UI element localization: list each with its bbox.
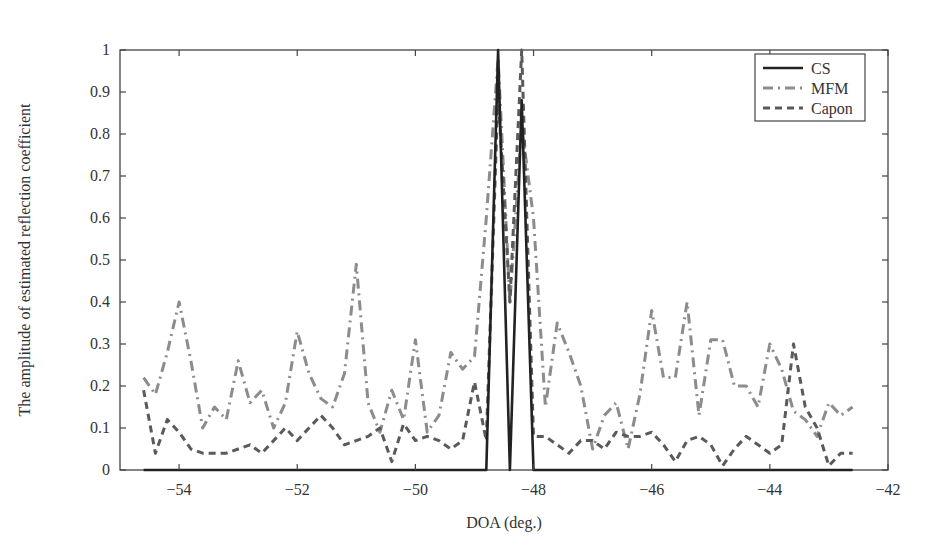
y-tick-label: 0.6: [90, 209, 110, 226]
line-chart: −54−52−50−48−46−44−4200.10.20.30.40.50.6…: [0, 0, 943, 552]
x-tick-label: −52: [285, 481, 310, 498]
legend-mfm-label: MFM: [811, 80, 848, 97]
legend-capon-label: Capon: [811, 100, 853, 118]
y-tick-label: 0.8: [90, 125, 110, 142]
y-tick-label: 0.2: [90, 377, 110, 394]
x-axis-label: DOA (deg.): [466, 514, 542, 532]
x-tick-label: −48: [521, 481, 546, 498]
x-tick-label: −44: [757, 481, 782, 498]
legend-cs-label: CS: [811, 60, 831, 77]
legend: CSMFMCapon: [755, 54, 865, 121]
y-axis-label: The amplitude of estimated reflection co…: [16, 103, 34, 416]
y-tick-label: 0.4: [90, 293, 110, 310]
y-tick-label: 0.5: [90, 251, 110, 268]
y-tick-label: 0.1: [90, 419, 110, 436]
y-tick-label: 0.7: [90, 167, 110, 184]
x-tick-label: −50: [403, 481, 428, 498]
x-tick-label: −54: [167, 481, 192, 498]
y-tick-label: 0: [102, 461, 110, 478]
y-tick-label: 0.9: [90, 83, 110, 100]
x-tick-label: −46: [639, 481, 664, 498]
x-tick-label: −42: [875, 481, 900, 498]
y-tick-label: 1: [102, 41, 110, 58]
y-tick-label: 0.3: [90, 335, 110, 352]
